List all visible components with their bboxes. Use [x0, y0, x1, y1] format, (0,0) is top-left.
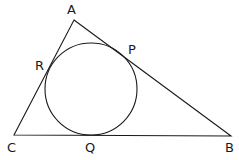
- tangent-label-p: P: [128, 42, 136, 57]
- vertex-label-a: A: [67, 2, 76, 17]
- incircle: [45, 43, 137, 135]
- vertex-label-c: C: [7, 140, 16, 155]
- tangent-label-q: Q: [85, 140, 95, 155]
- vertex-label-b: B: [225, 140, 234, 155]
- triangle-incircle-diagram: A B C P Q R: [0, 0, 239, 160]
- tangent-label-r: R: [35, 58, 44, 73]
